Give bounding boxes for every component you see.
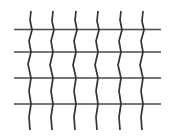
figure-background <box>0 0 175 137</box>
figure-canvas <box>0 0 175 137</box>
grid-illusion-drawing <box>0 0 175 137</box>
